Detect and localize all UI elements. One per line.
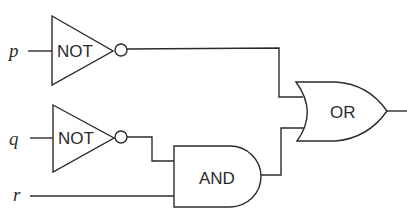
and-gate: AND — [174, 146, 261, 207]
logic-circuit-diagram: p NOT q NOT r AND OR — [0, 0, 407, 214]
or-gate: OR — [296, 82, 387, 141]
wire-not2-to-and — [127, 137, 174, 161]
wire-and-to-or — [261, 128, 305, 175]
or-gate-label: OR — [330, 103, 356, 122]
input-label-q: q — [9, 128, 19, 149]
not-gate-2: NOT — [53, 105, 127, 172]
input-label-r: r — [13, 184, 21, 205]
inversion-bubble-1 — [115, 44, 127, 56]
not-gate-1-label: NOT — [57, 42, 93, 61]
input-label-p: p — [7, 40, 19, 61]
and-gate-label: AND — [199, 169, 235, 188]
wire-not1-to-or — [127, 48, 303, 97]
not-gate-1: NOT — [52, 16, 127, 85]
inversion-bubble-2 — [115, 131, 127, 143]
not-gate-2-label: NOT — [58, 129, 94, 148]
